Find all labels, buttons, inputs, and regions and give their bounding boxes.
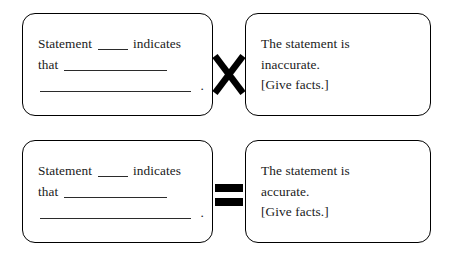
stem-line-1-prefix-bottom: Statement (38, 163, 92, 178)
stem-line-3-bottom: . (38, 203, 202, 224)
stem-line-1-top: Statement indicates (38, 34, 202, 55)
statement-stem-text-top: Statement indicates that . (38, 34, 202, 97)
verdict-line-1-accurate: The statement is (261, 161, 420, 182)
verdict-line-2-inaccurate: inaccurate. (261, 55, 420, 76)
operator-multiply-x (213, 13, 245, 116)
stem-line-3-top: . (38, 76, 202, 97)
stem-line-2-bottom: that (38, 182, 202, 203)
verdict-line-3-accurate: [Give facts.] (261, 202, 420, 223)
blank-statement-number-top[interactable] (98, 49, 128, 50)
verdict-box-accurate[interactable]: The statement is accurate. [Give facts.] (245, 140, 431, 243)
multiply-x-icon (213, 13, 245, 116)
stem-line-2-top: that (38, 55, 202, 76)
worksheet-row-inaccurate: Statement indicates that . (0, 11, 450, 121)
verdict-box-inaccurate[interactable]: The statement is inaccurate. [Give facts… (245, 13, 431, 116)
verdict-line-1-inaccurate: The statement is (261, 34, 420, 55)
blank-continuation-bottom[interactable] (40, 218, 191, 219)
blank-that-clause-bottom[interactable] (64, 197, 167, 198)
statement-stem-box-bottom[interactable]: Statement indicates that . (22, 140, 213, 243)
verdict-line-3-inaccurate: [Give facts.] (261, 75, 420, 96)
stem-line-1-suffix-bottom: indicates (133, 163, 181, 178)
blank-statement-number-bottom[interactable] (98, 176, 128, 177)
statement-stem-text-bottom: Statement indicates that . (38, 161, 202, 224)
verdict-text-inaccurate: The statement is inaccurate. [Give facts… (261, 34, 420, 96)
stem-line-1-prefix-top: Statement (38, 36, 92, 51)
worksheet-canvas: Statement indicates that . (0, 0, 450, 259)
statement-stem-box-top[interactable]: Statement indicates that . (22, 13, 213, 116)
operator-equals (213, 140, 245, 243)
stem-period-top: . (200, 78, 203, 93)
stem-line-2-prefix-top: that (38, 57, 58, 72)
verdict-text-accurate: The statement is accurate. [Give facts.] (261, 161, 420, 223)
stem-period-bottom: . (200, 205, 203, 220)
stem-line-1-suffix-top: indicates (133, 36, 181, 51)
worksheet-row-accurate: Statement indicates that . (0, 138, 450, 248)
equals-icon (213, 140, 245, 243)
blank-that-clause-top[interactable] (64, 70, 167, 71)
blank-continuation-top[interactable] (40, 91, 191, 92)
stem-line-1-bottom: Statement indicates (38, 161, 202, 182)
verdict-line-2-accurate: accurate. (261, 182, 420, 203)
stem-line-2-prefix-bottom: that (38, 184, 58, 199)
